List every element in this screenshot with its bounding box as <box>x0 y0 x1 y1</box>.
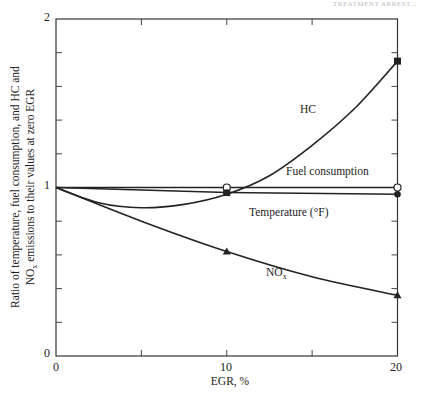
series-label-fuel-consumption: Fuel consumption <box>286 165 369 177</box>
x-tick-label-20: 20 <box>390 360 402 375</box>
x-axis-label: EGR, % <box>200 375 260 387</box>
y-tick-label-2: 2 <box>44 10 50 25</box>
y-axis-label-line1: Ratio of temperature, fuel consumption, … <box>8 37 23 337</box>
series-label-temperature: Temperature (°F) <box>249 206 328 218</box>
series-label-nox: NOx <box>266 266 287 281</box>
open-circle-marker <box>394 184 401 191</box>
filled-square-marker <box>394 58 401 65</box>
series-lines <box>56 61 398 295</box>
series-label-hc: HC <box>300 103 316 115</box>
filled-circle-marker <box>394 191 401 198</box>
series-markers <box>223 58 402 299</box>
chart-canvas <box>0 0 421 399</box>
y-axis-label-line2: NOx emissions to their values at zero EG… <box>23 37 42 337</box>
filled-circle-marker <box>223 189 230 196</box>
x-tick-label-0: 0 <box>53 360 59 375</box>
y-tick-label-1: 1 <box>44 178 50 193</box>
y-tick-label-0: 0 <box>44 346 50 361</box>
y-axis-label: Ratio of temperature, fuel consumption, … <box>8 37 42 337</box>
x-tick-label-10: 10 <box>220 360 232 375</box>
